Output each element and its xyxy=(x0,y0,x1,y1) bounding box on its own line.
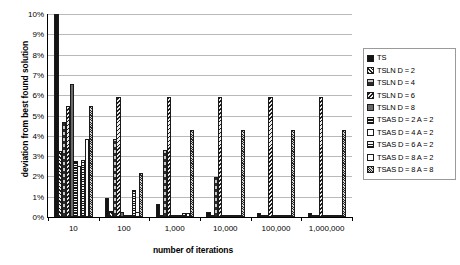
x-axis-title: number of iterations xyxy=(33,245,353,255)
legend-item: TSAS D = 2 A = 2 xyxy=(367,114,453,126)
legend-item-label: TSLN D = 8 xyxy=(377,104,415,112)
y-axis-tick-label: 7% xyxy=(32,70,44,79)
legend-item: TSLN D = 2 xyxy=(367,64,453,76)
legend-swatch-icon xyxy=(367,141,374,148)
x-axis-tick-label: 10,000 xyxy=(213,224,237,233)
x-axis-tick-label: 100 xyxy=(117,224,130,233)
bar xyxy=(167,97,171,217)
legend-item-label: TS xyxy=(377,54,386,62)
bar xyxy=(268,97,272,217)
y-axis-tick-label: 3% xyxy=(32,152,44,161)
y-axis-tick-label: 10% xyxy=(28,10,44,19)
x-axis-tick-mark xyxy=(48,217,49,221)
legend-item: TSLN D = 8 xyxy=(367,102,453,114)
legend-item-label: TSLN D = 4 xyxy=(377,79,415,87)
legend-item-label: TSLN D = 6 xyxy=(377,92,415,100)
legend-swatch-icon xyxy=(367,117,374,124)
chart-legend: TSTSLN D = 2TSLN D = 4TSLN D = 6TSLN D =… xyxy=(363,48,456,180)
y-axis-tick-label: 8% xyxy=(32,50,44,59)
legend-swatch-icon xyxy=(367,104,374,111)
legend-item-label: TSLN D = 2 xyxy=(377,67,415,75)
legend-swatch-icon xyxy=(367,67,374,74)
bar-group xyxy=(200,14,251,217)
bar xyxy=(116,97,120,217)
x-axis-tick-mark xyxy=(251,217,252,221)
y-axis-tick-label: 6% xyxy=(32,91,44,100)
y-axis-tick-label: 0% xyxy=(32,213,44,222)
legend-swatch-icon xyxy=(367,154,374,161)
legend-item: TSLN D = 4 xyxy=(367,77,453,89)
legend-swatch-icon xyxy=(367,79,374,86)
bar xyxy=(342,130,346,217)
legend-item: TSAS D = 8 A = 2 xyxy=(367,151,453,163)
y-axis-tick-label: 2% xyxy=(32,172,44,181)
x-axis-tick-label: 1,000,000 xyxy=(309,224,345,233)
x-axis-tick-mark xyxy=(99,217,100,221)
bar-group xyxy=(149,14,200,217)
legend-item-label: TSAS D = 6 A = 2 xyxy=(377,141,433,149)
x-axis-tick-mark xyxy=(352,217,353,221)
legend-swatch-icon xyxy=(367,129,374,136)
x-axis-tick-mark xyxy=(200,217,201,221)
bar xyxy=(89,106,93,217)
x-axis-tick-mark xyxy=(301,217,302,221)
y-axis-tick-label: 9% xyxy=(32,30,44,39)
legend-item: TS xyxy=(367,52,453,64)
legend-swatch-icon xyxy=(367,92,374,99)
legend-swatch-icon xyxy=(367,166,374,173)
x-axis-tick-mark xyxy=(149,217,150,221)
bar-group xyxy=(301,14,352,217)
legend-item-label: TSAS D = 4 A = 2 xyxy=(377,129,433,137)
bar xyxy=(319,97,323,217)
x-axis-tick-label: 100,000 xyxy=(262,224,291,233)
x-axis-tick-label: 1,000 xyxy=(165,224,185,233)
bar-group xyxy=(48,14,99,217)
legend-item: TSAS D = 4 A = 2 xyxy=(367,126,453,138)
legend-item: TSAS D = 8 A = 8 xyxy=(367,164,453,176)
y-axis-tick-label: 5% xyxy=(32,111,44,120)
legend-item-label: TSAS D = 2 A = 2 xyxy=(377,116,433,124)
plot-area: 0%1%2%3%4%5%6%7%8%9%10%101001,00010,0001… xyxy=(47,14,352,218)
y-axis-tick-label: 4% xyxy=(32,131,44,140)
bar xyxy=(291,130,295,217)
bar-group xyxy=(99,14,150,217)
legend-item: TSLN D = 6 xyxy=(367,89,453,101)
legend-item-label: TSAS D = 8 A = 8 xyxy=(377,166,433,174)
bar-chart: deviation from best found solution 0%1%2… xyxy=(0,0,460,265)
legend-item-label: TSAS D = 8 A = 2 xyxy=(377,154,433,162)
y-axis-title: deviation from best found solution xyxy=(20,17,30,202)
bar-group xyxy=(251,14,302,217)
legend-item: TSAS D = 6 A = 2 xyxy=(367,139,453,151)
bar xyxy=(218,97,222,217)
bar xyxy=(241,130,245,217)
x-axis-tick-label: 10 xyxy=(69,224,78,233)
bar xyxy=(190,130,194,217)
y-axis-tick-label: 1% xyxy=(32,192,44,201)
legend-swatch-icon xyxy=(367,55,374,62)
bar xyxy=(139,173,143,217)
